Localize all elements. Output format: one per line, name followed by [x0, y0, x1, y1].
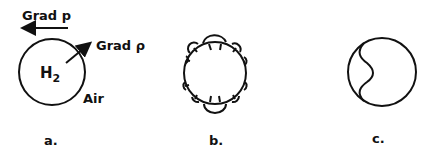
density-gradient-arrow-icon — [66, 44, 89, 63]
vortex-loop-icon — [204, 104, 226, 113]
surroundings-label: Air — [83, 91, 105, 106]
hook-mark-icon — [220, 44, 221, 50]
panel-a: Grad p Grad ρ H2 Air a. — [19, 8, 145, 148]
bubble-gas-label: H2 — [40, 64, 60, 85]
panel-b — [183, 35, 246, 113]
pressure-gradient-label: Grad p — [22, 8, 71, 23]
hook-mark-icon — [209, 44, 211, 50]
hook-mark-icon — [185, 85, 189, 86]
hook-mark-icon — [210, 96, 211, 102]
diagram-canvas: Grad p Grad ρ H2 Air a. b. — [0, 0, 432, 158]
hook-mark-icon — [186, 60, 190, 61]
panel-c — [348, 38, 416, 106]
density-gradient-label: Grad ρ — [96, 38, 145, 53]
hook-mark-icon — [219, 96, 220, 102]
bubble-interface-curve — [360, 43, 373, 101]
panel-label-c: c. — [372, 131, 385, 146]
panel-label-b: b. — [209, 133, 223, 148]
perturbed-bubble-circle — [184, 42, 246, 104]
deformed-bubble-outer-circle — [348, 38, 416, 106]
panel-label-a: a. — [44, 133, 58, 148]
